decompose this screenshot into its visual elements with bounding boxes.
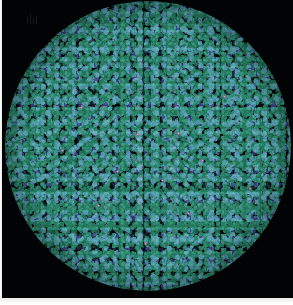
figure-caption <box>0 298 293 305</box>
scan-left-edge <box>0 0 2 305</box>
micrograph-plate <box>2 0 293 298</box>
fine-grain-layer <box>5 1 291 291</box>
micrograph-figure <box>0 0 293 305</box>
circular-field-of-view <box>5 1 291 291</box>
